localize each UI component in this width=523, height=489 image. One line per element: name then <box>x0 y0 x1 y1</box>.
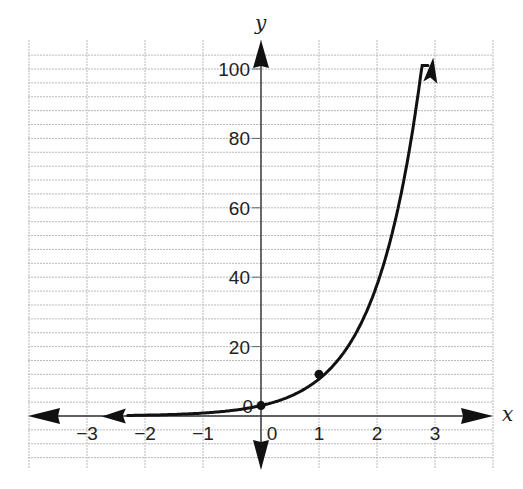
y-tick-label: 80 <box>229 128 250 149</box>
data-point <box>315 370 324 379</box>
y-tick-label: 40 <box>229 267 250 288</box>
exponential-graph: −3−2−10123204060801000 x y <box>0 0 523 489</box>
x-tick-label: 1 <box>314 423 325 444</box>
curve-line <box>128 66 428 416</box>
curve-left-arrow-icon <box>102 409 126 424</box>
x-axis-title: x <box>502 402 513 426</box>
x-tick-label: −3 <box>76 423 98 444</box>
x-tick-label: 0 <box>267 423 278 444</box>
x-tick-label: 2 <box>372 423 383 444</box>
y-tick-label: 100 <box>218 59 250 80</box>
y-axis-title: y <box>254 11 267 35</box>
x-tick-label: −2 <box>134 423 156 444</box>
x-tick-label: −1 <box>192 423 214 444</box>
y-tick-label: 60 <box>229 198 250 219</box>
data-point <box>257 401 266 410</box>
curve <box>102 58 437 424</box>
x-axis-left-arrow-icon <box>28 408 60 424</box>
x-tick-label: 3 <box>430 423 441 444</box>
y-axis-up-arrow-icon <box>253 40 269 68</box>
tick-labels: −3−2−10123204060801000 <box>76 59 440 444</box>
x-axis-right-arrow-icon <box>461 408 493 424</box>
y-axis-down-arrow-icon <box>253 440 269 470</box>
y-tick-label: 20 <box>229 337 250 358</box>
